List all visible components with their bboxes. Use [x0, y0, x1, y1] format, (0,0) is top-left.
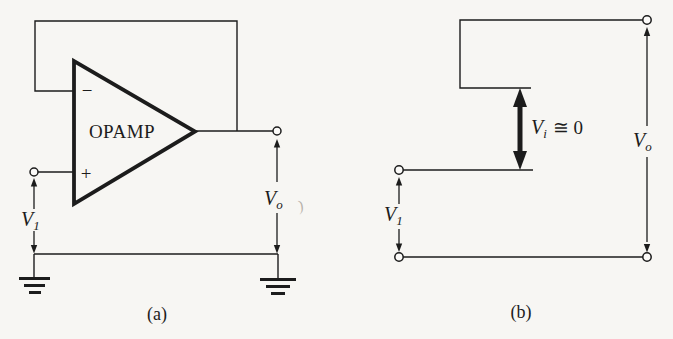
v1-label: V1 [384, 203, 403, 228]
inverting-input-sign: − [82, 80, 93, 101]
arrow-down-icon [274, 245, 280, 254]
caption-b: (b) [511, 302, 532, 323]
circuit-b: Vi≅ 0 V1 Vo [384, 16, 652, 323]
arrow-down-icon [396, 244, 402, 253]
output-terminal-top [643, 16, 651, 24]
caption-a: (a) [147, 304, 167, 325]
vi-label: Vi≅ 0 [531, 116, 583, 141]
output-terminal-bottom [643, 253, 651, 261]
arrow-down-icon [31, 245, 37, 254]
opamp-label: OPAMP [89, 121, 155, 142]
input-terminal [30, 168, 38, 176]
feedback-top-wire [460, 20, 643, 88]
vi-arrow [513, 88, 527, 170]
schematic-figure: OPAMP − + V1 [0, 0, 673, 339]
arrow-down-icon [644, 244, 650, 253]
ground-icon-left [19, 254, 50, 293]
feedback-wire [35, 21, 237, 131]
vo-label: Vo [264, 187, 283, 212]
input-terminal [395, 166, 403, 174]
thick-arrow-down-icon [513, 151, 527, 170]
ground-icon-right [260, 254, 296, 294]
v1-label: V1 [21, 208, 40, 233]
vo-label: Vo [633, 129, 652, 154]
noninverting-input-sign: + [81, 163, 92, 184]
output-terminal [273, 127, 281, 135]
circuit-a: OPAMP − + V1 [19, 21, 306, 325]
scan-artifact-mark: ) [295, 197, 306, 215]
bottom-terminal-left [395, 253, 403, 261]
